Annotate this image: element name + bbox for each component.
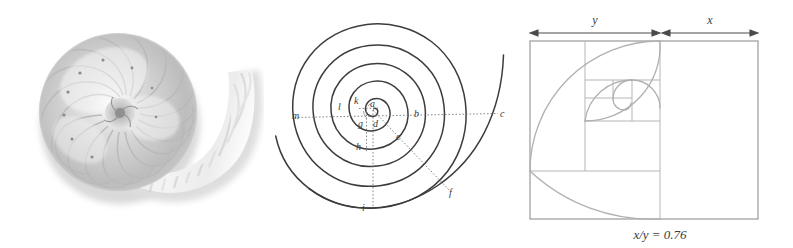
label-m: m — [292, 110, 299, 121]
label-k: k — [354, 95, 359, 106]
line-m-c — [295, 114, 499, 118]
label-c: c — [500, 108, 505, 119]
spiral-arc-1 — [530, 41, 660, 171]
shell-photo-canvas — [0, 0, 264, 248]
label-e: e — [396, 131, 401, 142]
spiral-arc-3 — [585, 80, 632, 121]
dimension-arrows — [530, 30, 758, 36]
label-g: g — [358, 118, 363, 129]
fibonacci-subdivision-lines — [530, 41, 660, 219]
label-b: b — [414, 108, 419, 119]
ratio-caption: x/y = 0.76 — [632, 227, 687, 242]
arrowhead-x-left — [662, 30, 670, 36]
spiral-diagram-canvas: a b c d e f g h i k l m — [264, 0, 528, 248]
spiral-arc-6 — [613, 99, 624, 110]
outer-rectangle — [530, 41, 758, 219]
golden-rect-canvas: y x — [528, 0, 793, 248]
spiral-arc-left-tail — [276, 136, 310, 189]
spiral-arc-4 — [632, 80, 660, 108]
arrowhead-y-right — [652, 30, 660, 36]
label-a: a — [370, 98, 375, 109]
nautilus-shell-photograph — [0, 0, 264, 248]
arrowhead-y-left — [530, 30, 538, 36]
fibonacci-spiral-curve — [530, 41, 660, 219]
arrowhead-x-right — [750, 30, 758, 36]
spiral-point-labels: a b c d e f g h i k l m — [292, 95, 505, 213]
dimension-label-y: y — [591, 13, 598, 27]
label-f: f — [449, 187, 453, 198]
label-i: i — [362, 202, 365, 213]
label-h: h — [356, 141, 361, 152]
spiral-arc-0 — [530, 171, 660, 219]
label-l: l — [338, 101, 341, 112]
label-d: d — [373, 118, 379, 129]
golden-rectangle-fibonacci-spiral-diagram: y x — [528, 0, 793, 248]
three-panel-figure: a b c d e f g h i k l m — [0, 0, 793, 248]
dimension-label-x: x — [706, 13, 713, 27]
shell-body-disc — [36, 22, 199, 190]
labeled-logarithmic-spiral-diagram: a b c d e f g h i k l m — [264, 0, 528, 248]
